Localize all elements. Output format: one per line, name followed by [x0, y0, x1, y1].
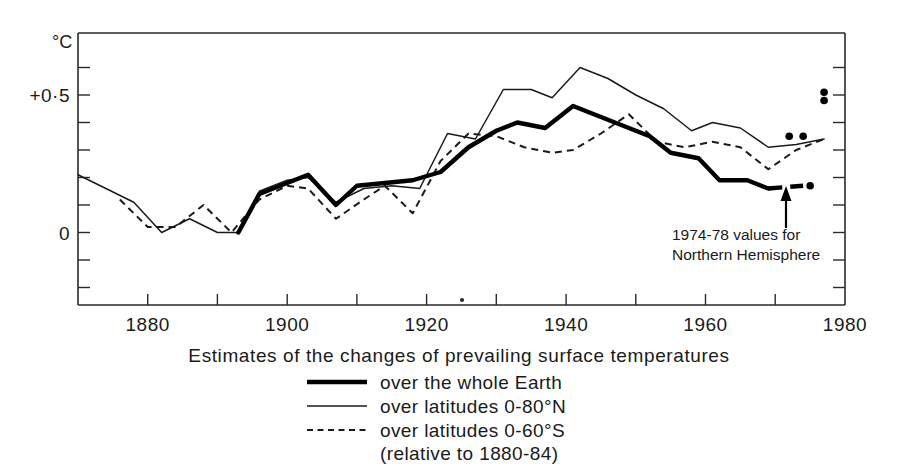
scatter-point [785, 132, 793, 140]
scatter-point [799, 132, 807, 140]
axes-frame [78, 33, 845, 305]
chart-canvas: +0·5 0 °C 1880 1900 1920 1940 1960 1980 … [0, 0, 919, 469]
y-tick-label-half: +0·5 [29, 85, 70, 106]
series-line-whole-earth [238, 106, 768, 233]
scatter-point [820, 88, 828, 96]
scatter-point [806, 182, 814, 190]
x-tick-label-1940: 1940 [544, 314, 588, 335]
legend-label-latitudes-north: over latitudes 0-80°N [380, 396, 566, 417]
temperature-change-figure: +0·5 0 °C 1880 1900 1920 1940 1960 1980 … [0, 0, 919, 469]
y-axis-ticks-right [833, 68, 845, 288]
legend-item-latitudes-0-60S: over latitudes 0-60°S [307, 420, 565, 441]
annotation-line-1: 1974-78 values for [672, 226, 800, 243]
legend-item-whole-earth: over the whole Earth [307, 372, 562, 393]
series-group [78, 68, 824, 233]
y-tick-label-zero: 0 [59, 223, 70, 244]
legend-item-latitudes-0-80N: over latitudes 0-80°N [307, 396, 566, 417]
legend: over the whole Earth over latitudes 0-80… [307, 372, 566, 464]
scatter-point [820, 97, 828, 105]
series-line-latitudes-0-60S [120, 114, 824, 232]
legend-label-latitudes-south: over latitudes 0-60°S [380, 420, 565, 441]
legend-label-whole-earth: over the whole Earth [380, 372, 562, 393]
chart-caption: Estimates of the changes of prevailing s… [188, 345, 729, 366]
x-tick-label-1880: 1880 [126, 314, 170, 335]
x-tick-label-1900: 1900 [265, 314, 309, 335]
x-tick-label-1960: 1960 [683, 314, 727, 335]
legend-baseline-note: (relative to 1880-84) [380, 443, 558, 464]
y-axis-unit-label: °C [52, 32, 72, 52]
scan-speck [460, 298, 464, 302]
annotation-arrow [781, 186, 792, 228]
x-tick-label-1980: 1980 [823, 314, 867, 335]
x-tick-label-1920: 1920 [404, 314, 448, 335]
annotation-line-2: Northern Hemisphere [672, 246, 820, 263]
